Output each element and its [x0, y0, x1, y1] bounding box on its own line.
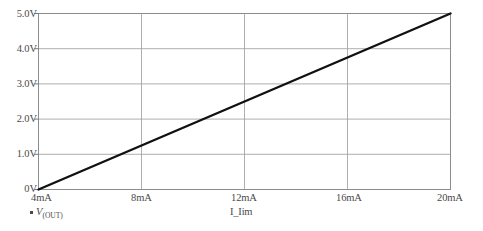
legend: V(OUT) [30, 206, 63, 220]
x-axis-title: I_Iim [230, 206, 252, 217]
x-tick-label: 4mA [31, 192, 52, 203]
x-tick-label: 12mA [231, 192, 257, 203]
chart-figure: 5.0V 4.0V 3.0V 2.0V 1.0V 0V [0, 0, 483, 231]
y-axis-ticks [34, 14, 39, 190]
legend-label: V(OUT) [36, 206, 63, 220]
x-tick-label: 8mA [131, 192, 152, 203]
legend-label-sub: (OUT) [42, 211, 62, 220]
x-tick-label: 20mA [437, 192, 463, 203]
x-tick-label: 16mA [336, 192, 362, 203]
square-marker-icon [30, 211, 33, 214]
